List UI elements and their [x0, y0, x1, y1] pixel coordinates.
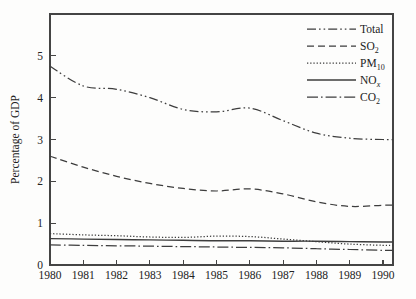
emissions-gdp-line-chart: 1980198119821983198419851986198719881989… — [0, 0, 416, 299]
x-tick-label: 1981 — [72, 269, 95, 281]
x-tick-label: 1985 — [205, 269, 228, 281]
x-tick-label: 1982 — [105, 269, 128, 281]
y-tick-label: 3 — [37, 134, 43, 146]
series-line-co2 — [50, 245, 393, 251]
y-tick-label: 4 — [37, 92, 43, 104]
y-tick-label: 5 — [37, 50, 43, 62]
plot-border — [50, 14, 393, 265]
legend-label-co2: CO2 — [360, 91, 380, 106]
x-tick-label: 1984 — [172, 269, 195, 281]
legend-label-total: Total — [360, 23, 383, 35]
x-tick-label: 1989 — [338, 269, 361, 281]
y-tick-label: 1 — [37, 217, 43, 229]
x-tick-label: 1988 — [305, 269, 328, 281]
y-tick-label: 2 — [37, 175, 43, 187]
y-tick-label: 0 — [37, 259, 43, 271]
x-tick-label: 1987 — [272, 269, 295, 281]
legend-label-so2: SO2 — [360, 40, 379, 55]
y-axis-title: Percentage of GDP — [9, 95, 22, 184]
x-tick-label: 1983 — [138, 269, 161, 281]
x-tick-label: 1986 — [238, 269, 261, 281]
legend-label-pm10: PM10 — [360, 57, 385, 72]
series-line-so2 — [50, 156, 393, 206]
series-line-total — [50, 66, 393, 139]
x-tick-label: 1990 — [372, 269, 395, 281]
legend-label-nox: NOx — [360, 74, 381, 89]
scanned-chart-page: 1980198119821983198419851986198719881989… — [0, 0, 416, 299]
series-line-nox — [50, 239, 393, 242]
